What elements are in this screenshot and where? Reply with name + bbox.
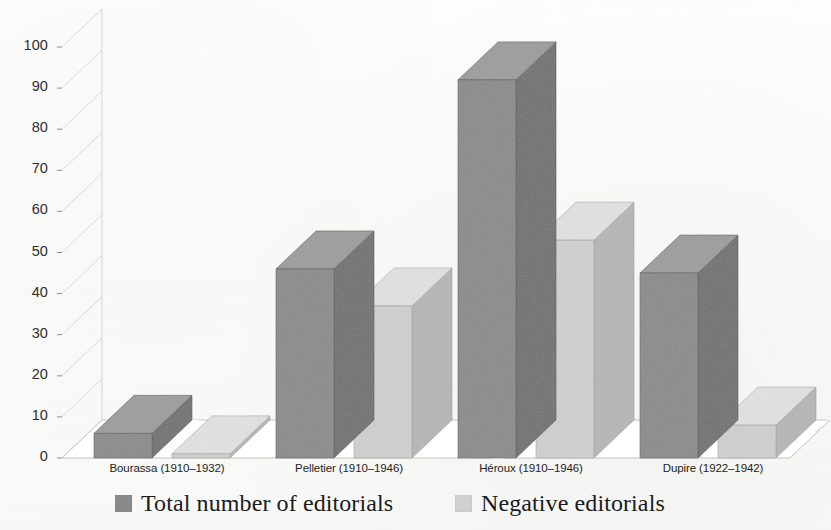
legend-entry[interactable]: Negative editorials [455,490,665,517]
grid-depth-connector [62,379,102,417]
bar-total-editorials [276,231,374,458]
legend-label: Negative editorials [481,490,665,517]
grid-depth-connector [62,215,102,253]
y-axis-tick-label: 20 [2,366,48,382]
y-axis-tick-label: 70 [2,160,48,176]
grid-depth-connector [62,9,102,47]
legend-entry[interactable]: Total number of editorials [115,490,393,517]
y-axis-tick-label: 30 [2,325,48,341]
y-axis-tick-label: 10 [2,407,48,423]
axis-lines [57,9,102,458]
legend-label: Total number of editorials [141,490,393,517]
grid-depth-connector [62,338,102,376]
grid-depth-connector [62,132,102,170]
bar-total-editorials [640,235,738,458]
grid-depth-connector [62,256,102,294]
y-axis-tick-label: 100 [2,37,48,53]
y-axis-tick-label: 90 [2,78,48,94]
chart-canvas [0,0,831,480]
y-axis-tick-label: 80 [2,119,48,135]
chart-plot-area: 0102030405060708090100 Bourassa (1910–19… [0,0,831,480]
x-axis-category-label: Pelletier (1910–1946) [249,462,449,474]
x-axis-category-label: Bourassa (1910–1932) [67,462,267,474]
y-axis-tick-label: 60 [2,201,48,217]
grid-depth-connector [62,91,102,129]
chart-legend: Total number of editorialsNegative edito… [0,484,831,530]
y-axis-tick-label: 50 [2,243,48,259]
x-axis-category-label: Héroux (1910–1946) [431,462,631,474]
grid-depth-connector [62,173,102,211]
y-axis-tick-label: 40 [2,284,48,300]
x-axis-category-label: Dupire (1922–1942) [613,462,813,474]
bar-total-editorials [458,42,556,458]
grid-depth-connector [62,297,102,335]
bars-group [94,42,816,458]
grid-depth-connector [62,50,102,88]
y-axis-tick-label: 0 [2,448,48,464]
legend-swatch-icon [115,495,132,512]
legend-swatch-icon [455,495,472,512]
